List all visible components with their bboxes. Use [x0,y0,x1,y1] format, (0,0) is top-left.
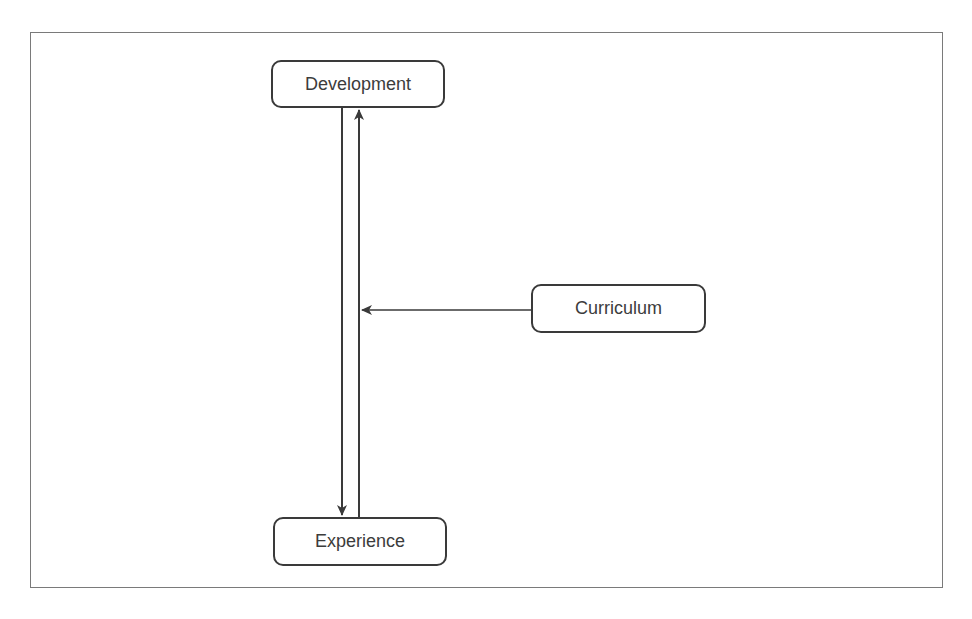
node-development-label: Development [305,74,411,95]
node-development: Development [271,60,445,108]
diagram-links [0,0,972,619]
node-curriculum: Curriculum [531,284,706,333]
node-experience-label: Experience [315,531,405,552]
node-experience: Experience [273,517,447,566]
node-curriculum-label: Curriculum [575,298,662,319]
